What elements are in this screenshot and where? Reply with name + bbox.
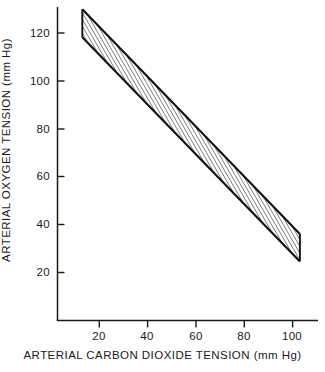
x-tick-label-100: 100 — [282, 330, 302, 342]
y-tick-label-80: 80 — [14, 123, 50, 135]
x-axis-title: ARTERIAL CARBON DIOXIDE TENSION (mm Hg) — [0, 349, 325, 361]
y-tick-label-100: 100 — [14, 75, 50, 87]
y-tick-label-20: 20 — [14, 266, 50, 278]
y-tick-label-120: 120 — [14, 27, 50, 39]
y-tick-label-60: 60 — [14, 170, 50, 182]
plot-area — [0, 0, 325, 372]
chart-figure: 120 100 80 60 40 20 20 40 60 80 100 ARTE… — [0, 0, 325, 372]
x-tick-label-40: 40 — [140, 330, 153, 342]
chart-background — [0, 0, 325, 372]
y-axis-title: ARTERIAL OXYGEN TENSION (mm Hg) — [0, 0, 18, 300]
x-tick-label-80: 80 — [237, 330, 250, 342]
x-tick-label-60: 60 — [189, 330, 202, 342]
y-tick-label-40: 40 — [14, 218, 50, 230]
x-tick-label-20: 20 — [92, 330, 105, 342]
